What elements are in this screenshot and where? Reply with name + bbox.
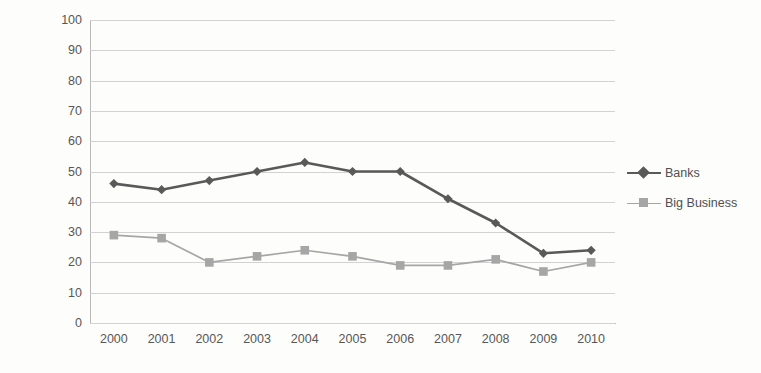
y-tick-label: 30 xyxy=(46,226,82,238)
data-point xyxy=(348,167,357,176)
y-tick-label: 70 xyxy=(46,105,82,117)
series-layer xyxy=(90,20,615,323)
line-chart: percent answering "Great Deal"/"Quite a … xyxy=(0,0,761,373)
x-tick-label: 2007 xyxy=(422,332,474,346)
x-tick-label: 2002 xyxy=(183,332,235,346)
data-point xyxy=(205,258,214,267)
y-tick-label: 0 xyxy=(46,317,82,329)
legend-swatch xyxy=(627,166,661,180)
y-tick-label: 20 xyxy=(46,256,82,268)
data-point xyxy=(205,176,214,185)
data-point xyxy=(539,267,548,276)
series-banks xyxy=(109,158,595,258)
x-tick-label: 2006 xyxy=(374,332,426,346)
x-tick-label: 2000 xyxy=(88,332,140,346)
legend-item[interactable]: Banks xyxy=(627,158,757,188)
data-point xyxy=(109,179,118,188)
x-tick-label: 2009 xyxy=(517,332,569,346)
legend-label: Big Business xyxy=(665,196,737,210)
y-tick-label: 50 xyxy=(46,166,82,178)
data-point xyxy=(587,258,596,267)
x-tick-label: 2010 xyxy=(565,332,617,346)
legend: BanksBig Business xyxy=(627,158,757,218)
x-tick-label: 2004 xyxy=(279,332,331,346)
data-point xyxy=(300,158,309,167)
legend-marker-diamond-icon xyxy=(637,166,650,179)
data-point xyxy=(157,234,166,243)
data-point xyxy=(348,252,357,261)
series-big-business xyxy=(110,231,596,276)
x-tick-label: 2008 xyxy=(470,332,522,346)
data-point xyxy=(110,231,119,240)
y-tick-label: 10 xyxy=(46,287,82,299)
legend-marker-square-icon xyxy=(639,198,648,207)
x-tick-label: 2005 xyxy=(327,332,379,346)
data-point xyxy=(252,167,261,176)
y-tick-label: 40 xyxy=(46,196,82,208)
data-point xyxy=(396,261,405,270)
x-tick-label: 2001 xyxy=(136,332,188,346)
data-point xyxy=(253,252,262,261)
data-point xyxy=(491,255,500,264)
y-tick-label: 90 xyxy=(46,44,82,56)
data-point xyxy=(444,261,453,270)
legend-item[interactable]: Big Business xyxy=(627,188,757,218)
legend-swatch xyxy=(627,196,661,210)
data-point xyxy=(300,246,309,255)
data-point xyxy=(157,185,166,194)
y-tick-label: 60 xyxy=(46,135,82,147)
y-tick-label: 80 xyxy=(46,75,82,87)
x-tick-label: 2003 xyxy=(231,332,283,346)
y-tick-label: 100 xyxy=(46,14,82,26)
legend-label: Banks xyxy=(665,166,700,180)
plot-area xyxy=(90,20,615,323)
gridline xyxy=(90,323,615,324)
data-point xyxy=(587,246,596,255)
